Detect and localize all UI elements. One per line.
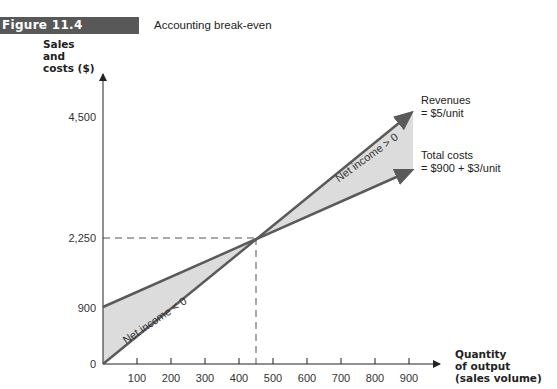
x-tick: 500 [258, 372, 288, 384]
costs-label: Total costs [421, 149, 501, 162]
y-tick-900: 900 [56, 302, 96, 314]
y-tick-0: 0 [56, 358, 96, 370]
x-tick: 600 [292, 372, 322, 384]
y-tick-4500: 4,500 [56, 111, 96, 123]
x-tick: 700 [326, 372, 356, 384]
x-tick: 400 [224, 372, 254, 384]
x-axis-label: Quantity of output (sales volume) [455, 348, 542, 384]
x-axis-label-line: Quantity [455, 348, 542, 360]
x-tick: 900 [394, 372, 424, 384]
costs-annotation: Total costs = $900 + $3/unit [421, 149, 501, 175]
y-tick-2250: 2,250 [56, 232, 96, 244]
x-tick: 100 [122, 372, 152, 384]
revenues-label: Revenues [421, 94, 471, 107]
costs-formula: = $900 + $3/unit [421, 162, 501, 175]
x-axis-label-line: of output [455, 360, 542, 372]
chart-plot [0, 0, 557, 389]
x-tick: 300 [190, 372, 220, 384]
x-axis-label-line: (sales volume) [455, 372, 542, 384]
revenues-rate: = $5/unit [421, 107, 471, 120]
x-tick: 800 [360, 372, 390, 384]
revenues-annotation: Revenues = $5/unit [421, 94, 471, 120]
x-tick: 200 [156, 372, 186, 384]
